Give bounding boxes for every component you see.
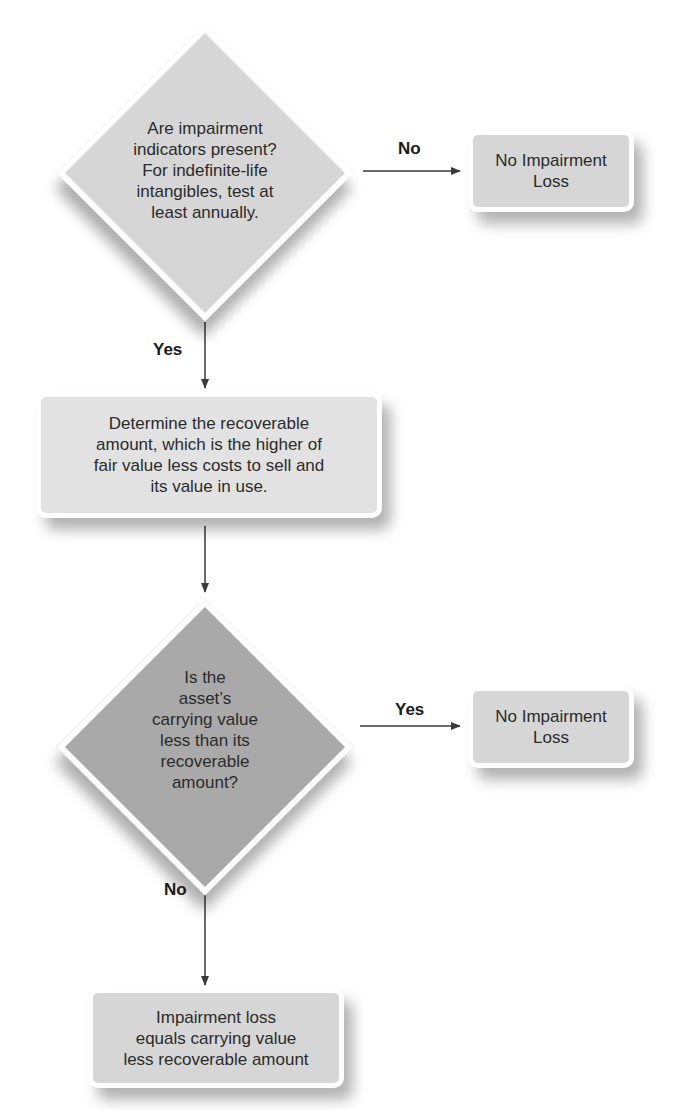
decision-2-text: Is the asset’s carrying value less than … xyxy=(130,665,280,795)
result-box-no-impairment-1: No Impairment Loss xyxy=(468,130,634,212)
flowchart-canvas: Are impairment indicators present? For i… xyxy=(0,0,681,1110)
process-box-determine-recoverable-amount: Determine the recoverable amount, which … xyxy=(36,392,382,518)
edge-label-no-2: No xyxy=(164,880,187,900)
decision-1-text: Are impairment indicators present? For i… xyxy=(105,110,305,230)
result-box-no-impairment-2: No Impairment Loss xyxy=(468,686,634,768)
edge-label-yes-2: Yes xyxy=(395,700,424,720)
edge-label-no-1: No xyxy=(398,139,421,159)
result-box-impairment-loss: Impairment loss equals carrying value le… xyxy=(88,988,344,1088)
edge-label-yes-1: Yes xyxy=(153,340,182,360)
